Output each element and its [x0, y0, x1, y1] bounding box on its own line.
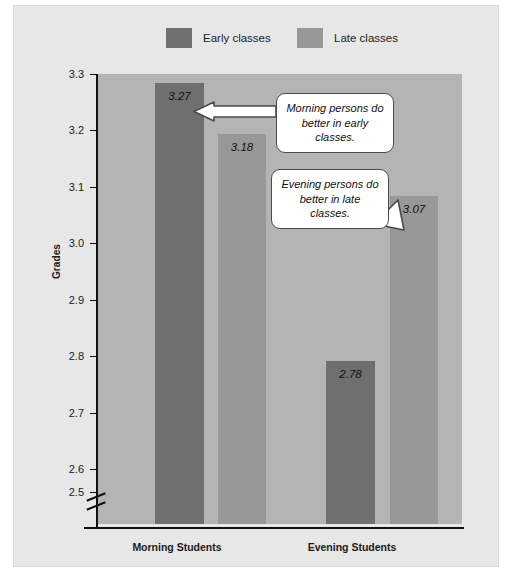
y-axis-tick-labels: 3.3 3.2 3.1 3.0 2.9 2.8 2.7 2.6 2.5 [46, 6, 84, 566]
bar-value-label: 3.18 [218, 141, 266, 153]
legend-label-late: Late classes [334, 32, 398, 44]
bar-morning-late[interactable]: 3.18 [218, 134, 266, 524]
y-tick-label: 2.6 [44, 464, 84, 475]
x-category-label-evening: Evening Students [272, 541, 432, 553]
chart-card: Early classes Late classes Grades 3.3 3.… [14, 6, 498, 566]
callout-morning-persons: Morning persons do better in early class… [276, 93, 394, 153]
y-tick-label: 3.0 [44, 238, 84, 249]
bar-morning-early[interactable]: 3.27 [155, 83, 204, 524]
y-tick-label: 3.1 [44, 182, 84, 193]
bar-value-label: 2.78 [326, 368, 375, 380]
axis-break-icon [86, 490, 108, 516]
y-tick-label: 3.3 [44, 69, 84, 80]
legend-item-late-classes: Late classes [297, 28, 398, 48]
bar-evening-early[interactable]: 2.78 [326, 361, 375, 524]
y-tick-label: 3.2 [44, 125, 84, 136]
legend-swatch-late-icon [297, 28, 323, 48]
legend-label-early: Early classes [203, 32, 271, 44]
legend-item-early-classes: Early classes [166, 28, 271, 48]
y-axis-line [96, 74, 98, 529]
bar-value-label: 3.27 [155, 90, 204, 102]
y-tick-label: 2.8 [44, 351, 84, 362]
y-tick-label: 2.7 [44, 408, 84, 419]
y-tick-label: 2.5 [44, 487, 84, 498]
x-axis-line [84, 527, 464, 529]
y-tick-label: 2.9 [44, 295, 84, 306]
x-category-label-morning: Morning Students [97, 541, 257, 553]
callout-arrow-early-icon [190, 102, 280, 128]
callout-evening-persons: Evening persons do better in late classe… [271, 169, 389, 229]
chart-legend: Early classes Late classes [14, 24, 498, 54]
legend-swatch-early-icon [166, 28, 192, 48]
